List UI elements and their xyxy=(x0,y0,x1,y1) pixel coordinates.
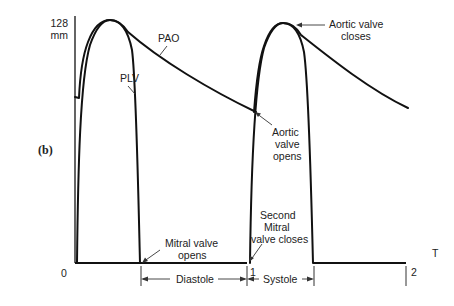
arrowhead-icon xyxy=(307,277,314,282)
annotation-aortic-valve-opens: Aortic valve opens xyxy=(255,112,302,162)
arrowhead-icon xyxy=(240,277,247,282)
x-tick-1: 1 xyxy=(250,266,256,278)
arrowhead-icon xyxy=(141,277,148,282)
plv-curve-cycle-1 xyxy=(77,20,140,263)
pao-curve-cycle-2 xyxy=(254,23,408,112)
svg-text:Aortic: Aortic xyxy=(272,126,299,138)
svg-text:Second: Second xyxy=(260,209,296,221)
annotation-aortic-valve-closes: Aortic valve closes xyxy=(296,18,383,42)
pao-label: PAO xyxy=(158,32,179,44)
plv-label: PLV xyxy=(120,72,139,84)
x-axis-label: T xyxy=(432,247,439,259)
x-tick-2: 2 xyxy=(411,266,417,278)
svg-text:opens: opens xyxy=(273,150,302,162)
svg-text:Mitral: Mitral xyxy=(264,221,290,233)
svg-text:Systole: Systole xyxy=(263,273,298,285)
x-tick-0: 0 xyxy=(61,267,67,279)
svg-text:Mitral valve: Mitral valve xyxy=(165,237,218,249)
arrowhead-icon xyxy=(296,23,302,28)
svg-text:valve closes: valve closes xyxy=(251,233,308,245)
svg-text:valve: valve xyxy=(275,138,300,150)
phase-systole: Systole xyxy=(247,273,314,285)
annotation-mitral-valve-opens: Mitral valve opens xyxy=(142,237,218,263)
pao-leader xyxy=(160,46,167,55)
svg-text:closes: closes xyxy=(341,30,371,42)
phase-diastole: Diastole xyxy=(141,273,247,285)
cardiac-pressure-diagram: (b) 128 mm PAO PLV Aortic valve closes A… xyxy=(0,0,454,306)
svg-text:Diastole: Diastole xyxy=(176,273,214,285)
svg-text:Aortic valve: Aortic valve xyxy=(329,18,383,30)
y-axis-unit-label: mm xyxy=(51,29,69,41)
svg-text:opens: opens xyxy=(178,249,207,261)
y-axis-max-label: 128 xyxy=(50,17,68,29)
annotation-second-mitral-valve-closes: Second Mitral valve closes xyxy=(249,209,308,262)
panel-label: (b) xyxy=(38,143,53,157)
